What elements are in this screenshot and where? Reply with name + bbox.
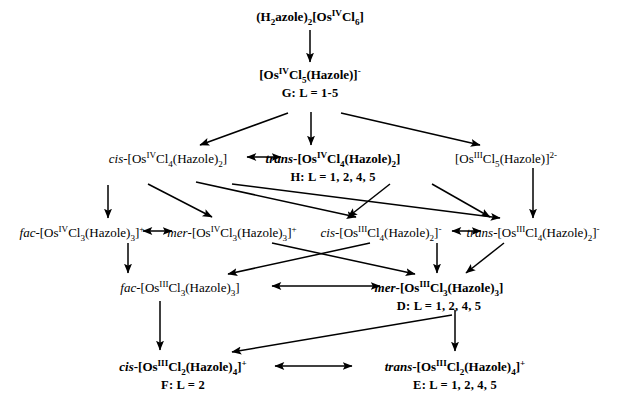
- species-formula: [OsIIICl5(Hazole)]2-: [455, 152, 557, 167]
- arrow-trans-Os4Cl4-to-trans-Os3Cl4: [432, 184, 490, 217]
- species-formula: trans-[OsIIICl2(Hazole)4]+: [385, 360, 525, 375]
- arrow-G-to-Os3Cl5: [341, 113, 480, 145]
- species-G: [OsIVCl5(Hazole)]-G: L = 1-5: [259, 68, 360, 100]
- arrow-cis-Os4Cl4-to-mer-Os4Cl3: [148, 184, 212, 217]
- arrow-mer-Os4Cl3-to-D: [272, 243, 415, 274]
- arrow-trans-Os3Cl4-to-D: [466, 243, 504, 273]
- arrow-trans-Os4Cl4-to-cis-Os3Cl4: [348, 184, 390, 217]
- species-formula: cis-[OsIIICl2(Hazole)4]+: [119, 360, 246, 375]
- species-formula: cis-[OsIIICl4(Hazole)2]-: [321, 226, 442, 241]
- species-label: G: L = 1-5: [259, 86, 360, 100]
- species-D: mer-[OsIIICl3(Hazole)3]D: L = 1, 2, 4, 5: [375, 281, 504, 313]
- species-fac-Os3-Cl3: fac-[OsIIICl3(Hazole)3]: [120, 281, 239, 296]
- species-label: F: L = 2: [119, 378, 246, 392]
- arrow-cis-Os4Cl4-to-trans-Os3Cl4: [232, 184, 500, 218]
- species-start: (H2azole)2[OsIVCl6]: [256, 10, 364, 25]
- species-formula: [OsIVCl5(Hazole)]-: [259, 68, 360, 83]
- reaction-scheme-diagram: (H2azole)2[OsIVCl6][OsIVCl5(Hazole)]-G: …: [0, 0, 620, 404]
- species-mer-Os4-Cl3: mer-[OsIVCl3(Hazole)3]+: [167, 226, 296, 241]
- species-label: E: L = 1, 2, 4, 5: [385, 378, 525, 392]
- arrow-cis-Os4Cl4-to-cis-Os3Cl4: [196, 182, 356, 217]
- species-cis-Os4-Cl4: cis-[OsIVCl4(Hazole)2]: [109, 152, 227, 167]
- species-formula: cis-[OsIVCl4(Hazole)2]: [109, 152, 227, 167]
- species-E: trans-[OsIIICl2(Hazole)4]+E: L = 1, 2, 4…: [385, 360, 525, 392]
- species-F: cis-[OsIIICl2(Hazole)4]+F: L = 2: [119, 360, 246, 392]
- species-formula: mer-[OsIIICl3(Hazole)3]: [375, 281, 504, 296]
- species-trans-Os3-Cl4: trans-[OsIIICl4(Hazole)2]-: [466, 226, 599, 241]
- arrow-D-to-F: [232, 315, 452, 352]
- species-formula: (H2azole)2[OsIVCl6]: [256, 10, 364, 25]
- species-formula: trans-[OsIIICl4(Hazole)2]-: [466, 226, 599, 241]
- species-formula: trans-[OsIVCl4(Hazole)2]: [266, 152, 401, 167]
- species-formula: fac-[OsIIICl3(Hazole)3]: [120, 281, 239, 296]
- arrow-cis-Os3Cl4-to-fac-Os3Cl3: [228, 243, 370, 274]
- species-cis-Os3-Cl4: cis-[OsIIICl4(Hazole)2]-: [321, 226, 442, 241]
- arrow-layer: [0, 0, 620, 404]
- species-formula: mer-[OsIVCl3(Hazole)3]+: [167, 226, 296, 241]
- species-label: D: L = 1, 2, 4, 5: [375, 299, 504, 313]
- arrow-G-to-cis-Os4: [200, 113, 288, 145]
- species-Os3-Cl5: [OsIIICl5(Hazole)]2-: [455, 152, 557, 167]
- species-formula: fac-[OsIVCl3(Hazole)3]+: [20, 226, 145, 241]
- species-trans-Os4-Cl4: trans-[OsIVCl4(Hazole)2]H: L = 1, 2, 4, …: [266, 152, 401, 184]
- species-fac-Os4-Cl3: fac-[OsIVCl3(Hazole)3]+: [20, 226, 145, 241]
- species-label: H: L = 1, 2, 4, 5: [266, 170, 401, 184]
